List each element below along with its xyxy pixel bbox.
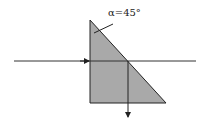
prism-diagram [0, 0, 206, 128]
angle-label: α=45° [108, 7, 141, 18]
